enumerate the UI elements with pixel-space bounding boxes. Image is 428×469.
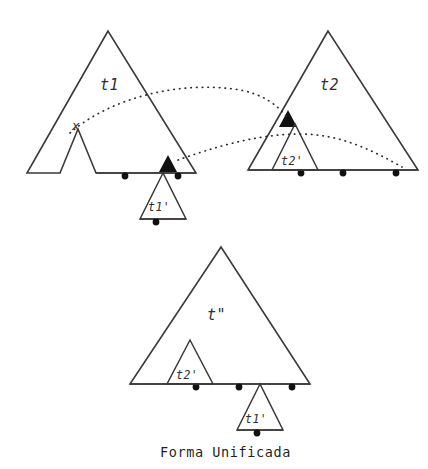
unification-links <box>70 87 402 167</box>
tree-t-unified: t" t2' t1' <box>130 247 310 436</box>
t-unified-leaf-dot <box>289 384 296 391</box>
subtree-t2-prime: t2' <box>272 124 318 170</box>
t1-prime-leaf-dot <box>153 219 160 226</box>
t1-substitution-marker-icon <box>159 155 177 172</box>
unified-t1-prime-leaf-dot <box>254 430 261 437</box>
figure-caption: Forma Unificada <box>160 444 291 460</box>
unification-diagram: t1 x t1' t2 <box>0 0 428 469</box>
t1-prime-label: t1' <box>148 200 170 214</box>
t-unified-leaf-dot <box>236 384 243 391</box>
t2-prime-label: t2' <box>281 154 303 168</box>
t2-outline <box>248 31 418 170</box>
unified-t2-prime-label: t2' <box>176 368 198 382</box>
t1-outline <box>27 31 196 173</box>
unified-subtree-t2-prime: t2' <box>167 340 213 384</box>
link-x-to-t2-marker <box>70 87 286 133</box>
t2-label: t2 <box>320 76 339 94</box>
figure-canvas: t1 x t1' t2 <box>0 0 428 469</box>
unified-subtree-t1-prime: t1' <box>237 384 283 436</box>
unified-t1-prime-label: t1' <box>245 412 267 426</box>
t-unified-label: t" <box>207 306 226 324</box>
subtree-t1-prime: t1' <box>140 173 186 225</box>
t1-leaf-dot <box>122 173 129 180</box>
t1-label: t1 <box>100 76 119 94</box>
t2-leaf-dot <box>393 170 400 177</box>
t1-leaf-dot <box>175 173 182 180</box>
t2-leaf-dot <box>340 170 347 177</box>
tree-t1: t1 x t1' <box>27 31 196 225</box>
